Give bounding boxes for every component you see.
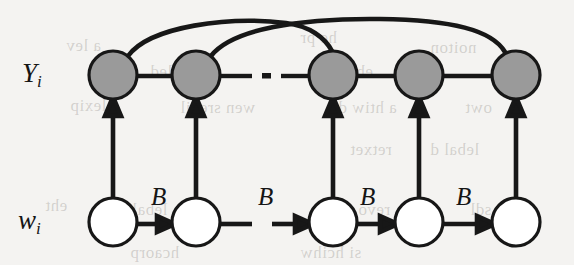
long-range-arc-group	[128, 19, 505, 56]
emission-arrow-w3-y3	[325, 97, 341, 198]
row-label-w-subscript: i	[36, 219, 41, 238]
long-range-arc-y2-y5	[211, 19, 505, 56]
row-label-y-subscript: i	[37, 72, 42, 91]
transition-label-3: B	[360, 183, 375, 211]
row-label-y-base: Y	[22, 58, 37, 88]
emission-arrow-w1-y1	[105, 97, 121, 198]
y-node-4[interactable]	[395, 51, 443, 99]
transition-arrow-w3-w4	[358, 216, 398, 232]
w-node-5[interactable]	[492, 198, 540, 246]
figure-canvas: he pra levnoitondetailedeht bnalexipwen …	[0, 0, 574, 265]
row-label-y: Yi	[22, 58, 42, 92]
transition-label-2: B	[258, 183, 273, 211]
y-node-3[interactable]	[309, 51, 357, 99]
transition-label-4: B	[456, 183, 471, 211]
w-node-1[interactable]	[89, 198, 137, 246]
transition-arrow-w1-w2	[138, 216, 175, 232]
transition-label-1: B	[151, 183, 166, 211]
row-label-w: wi	[18, 205, 41, 239]
long-range-arc-y1-y3	[128, 21, 332, 56]
y-node-1[interactable]	[89, 51, 137, 99]
emission-arrow-w4-y4	[411, 97, 427, 198]
row-label-w-base: w	[18, 205, 36, 235]
y-node-2[interactable]	[172, 51, 220, 99]
emission-arrow-w5-y5	[508, 97, 524, 198]
transition-arrow-w4-w5	[444, 216, 495, 232]
transition-arrow-gap-w3	[272, 216, 313, 232]
graphical-model-figure	[0, 0, 574, 265]
y-node-5[interactable]	[492, 51, 540, 99]
y-row-ellipsis-dot	[262, 73, 271, 79]
w-node-3[interactable]	[309, 198, 357, 246]
w-node-2[interactable]	[172, 198, 220, 246]
w-node-4[interactable]	[395, 198, 443, 246]
emission-arrow-w2-y2	[188, 97, 204, 198]
